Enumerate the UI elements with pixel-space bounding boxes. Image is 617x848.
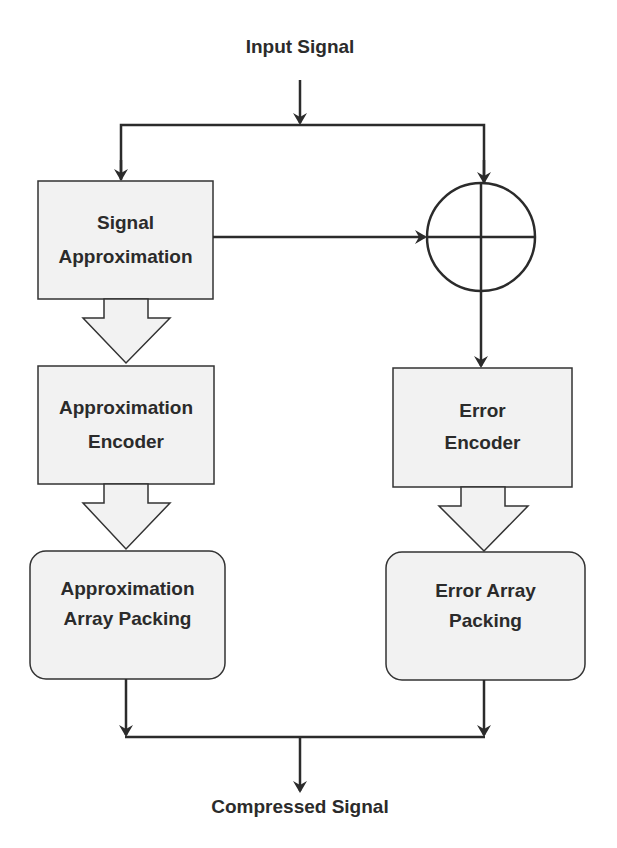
block-arrow-signal-to-encoder <box>83 299 170 363</box>
error-encoder-line1: Error <box>459 395 505 427</box>
input-signal-label: Input Signal <box>200 33 400 61</box>
signal-approximation-line2: Approximation <box>58 240 192 274</box>
error-array-packing-label: Error Array Packing <box>386 575 585 637</box>
block-arrow-encoder-to-packing <box>83 484 170 549</box>
block-arrow-error-encoder-to-packing <box>439 487 528 551</box>
signal-approximation-line1: Signal <box>97 206 154 240</box>
approximation-array-packing-label: Approximation Array Packing <box>30 573 225 635</box>
signal-approximation-label: Signal Approximation <box>38 205 213 275</box>
compressed-signal-label: Compressed Signal <box>180 793 420 821</box>
error-encoder-line2: Encoder <box>444 427 520 459</box>
approximation-array-packing-line1: Approximation <box>60 574 194 604</box>
error-encoder-label: Error Encoder <box>393 395 572 459</box>
approximation-encoder-line2: Encoder <box>88 425 164 459</box>
input-split-line <box>121 125 484 183</box>
approximation-array-packing-line2: Array Packing <box>64 604 192 634</box>
approximation-encoder-line1: Approximation <box>59 391 193 425</box>
error-array-packing-line1: Error Array <box>435 576 536 606</box>
approximation-encoder-label: Approximation Encoder <box>38 390 214 460</box>
error-array-packing-line2: Packing <box>449 606 522 636</box>
summing-junction-icon <box>427 183 535 291</box>
